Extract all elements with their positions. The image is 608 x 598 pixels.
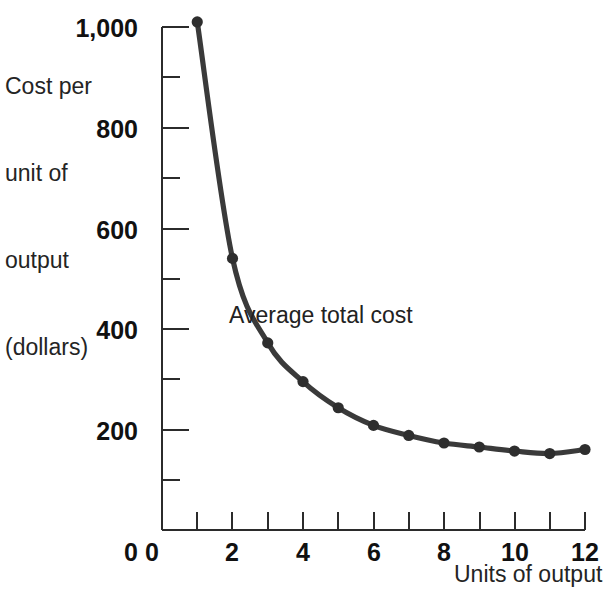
y-axis-title: Cost per unit of output (dollars) [5, 14, 92, 420]
data-point-12 [579, 444, 590, 455]
data-point-9 [474, 441, 485, 452]
x-tick-label-2: 2 [202, 538, 262, 567]
x-axis-title: Units of output [454, 560, 602, 589]
data-point-markers [192, 16, 591, 459]
y-axis-title-line-4: (dollars) [5, 333, 92, 362]
chart-container: 1,000 800 600 400 200 0 0 2 4 6 8 10 12 … [0, 0, 608, 598]
series-annotation-label: Average total cost [229, 302, 413, 329]
average-total-cost-curve [197, 22, 585, 454]
y-tick-label-200: 200 [18, 417, 138, 446]
x-tick-label-6: 6 [344, 538, 404, 567]
x-tick-label-0: 0 [122, 538, 182, 567]
data-point-6 [368, 420, 379, 431]
y-axis-title-line-2: unit of [5, 159, 92, 188]
data-point-2 [227, 253, 238, 264]
data-point-8 [438, 437, 449, 448]
y-tick-label-0: 0 [18, 538, 138, 567]
data-point-5 [333, 402, 344, 413]
y-axis-title-line-1: Cost per [5, 72, 92, 101]
data-point-7 [403, 430, 414, 441]
x-tick-label-4: 4 [273, 538, 333, 567]
data-point-3 [262, 337, 273, 348]
data-point-11 [544, 448, 555, 459]
data-point-10 [509, 445, 520, 456]
data-point-4 [297, 376, 308, 387]
y-axis-title-line-3: output [5, 246, 92, 275]
data-point-1 [192, 16, 203, 27]
